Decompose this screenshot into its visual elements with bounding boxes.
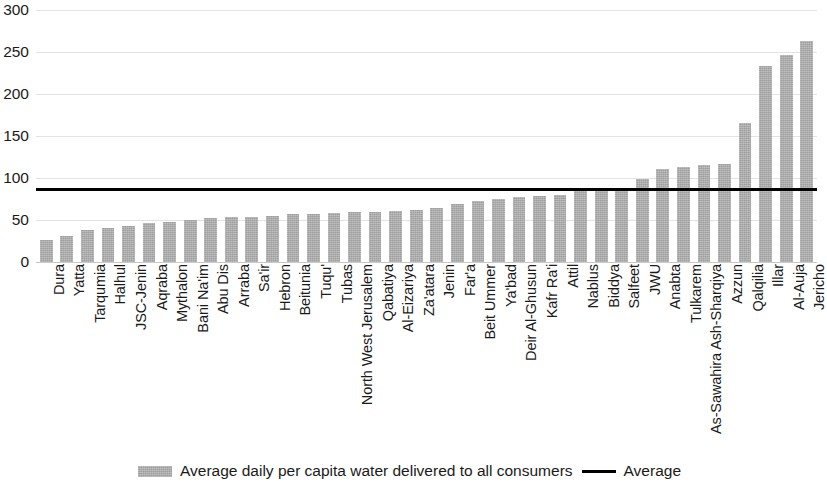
x-axis-tick-label: Al-Eizariya	[401, 264, 416, 332]
x-axis-tick-label: JSC-Jenin	[134, 264, 149, 330]
plot-area	[36, 10, 817, 262]
bar	[307, 214, 320, 262]
x-axis-tick-label: Biddya	[607, 264, 622, 308]
legend-label-average: Average	[624, 462, 681, 480]
bar	[759, 66, 772, 262]
bar	[800, 41, 813, 262]
x-axis-tick-label: Deir Al-Ghusun	[524, 264, 539, 361]
bar	[451, 204, 464, 262]
bar	[513, 197, 526, 262]
x-axis-tick-label: Bani Na'im	[196, 264, 211, 333]
bar	[698, 165, 711, 262]
bar-swatch-icon	[138, 466, 172, 477]
bar	[60, 236, 73, 262]
x-axis-tick-label: Tulkarem	[689, 264, 704, 323]
bar	[163, 222, 176, 262]
x-axis-tick-label: Mythalon	[175, 264, 190, 322]
y-axis-tick-label: 50	[12, 212, 29, 228]
x-axis-tick-label: Kafr Ra'i	[545, 264, 560, 318]
bar	[245, 217, 258, 262]
x-axis-tick-label: Jenin	[442, 264, 457, 298]
bar	[739, 123, 752, 262]
y-axis: 050100150200250300	[0, 0, 36, 272]
bar	[266, 216, 279, 262]
bar	[225, 217, 238, 262]
bar	[430, 208, 443, 262]
x-axis-tick-label: Tuqu'	[319, 264, 334, 299]
x-axis-tick-label: Tarqumia	[93, 264, 108, 323]
bar	[492, 199, 505, 262]
x-axis-tick-label: Aqraba	[155, 264, 170, 310]
x-axis-tick-label: Qabatiya	[381, 264, 396, 321]
bar	[533, 196, 546, 262]
x-axis-tick-label: Anabta	[668, 264, 683, 309]
x-axis-tick-label: Jericho	[812, 264, 827, 310]
x-axis-tick-label: Abu Dis	[216, 264, 231, 314]
x-axis-tick-label: Sa'ir	[257, 264, 272, 292]
y-axis-tick-label: 150	[3, 128, 29, 144]
bar	[287, 214, 300, 262]
x-axis-tick-label: Illar	[771, 264, 786, 287]
x-axis-tick-label: North West Jerusalem	[360, 264, 375, 405]
x-axis-tick-label: Tubas	[340, 264, 355, 303]
x-axis-tick-label: Beit Ummer	[483, 264, 498, 340]
bar	[615, 191, 628, 262]
y-axis-tick-label: 200	[3, 86, 29, 102]
bar	[369, 212, 382, 262]
x-axis: DuraYattaTarqumiaHalhulJSC-JeninAqrabaMy…	[36, 264, 817, 454]
x-axis-tick-label: Dura	[52, 264, 67, 295]
bar	[122, 226, 135, 262]
x-axis-tick-label: Arraba	[237, 264, 252, 307]
x-axis-tick-label: Al-Auja	[792, 264, 807, 310]
bar	[204, 218, 217, 262]
bar	[780, 55, 793, 262]
line-swatch-icon	[582, 470, 616, 473]
y-axis-tick-label: 0	[20, 254, 29, 270]
gridline	[36, 262, 817, 263]
x-axis-tick-label: Yatta	[72, 264, 87, 296]
legend-label-bars: Average daily per capita water delivered…	[180, 462, 573, 480]
bar	[472, 201, 485, 262]
x-axis-tick-label: Azzun	[730, 264, 745, 304]
bar	[184, 220, 197, 262]
x-axis-tick-label: Ya'bad	[504, 264, 519, 307]
y-axis-tick-label: 300	[3, 2, 29, 18]
legend-entry-average: Average	[582, 462, 681, 480]
x-axis-tick-label: Hebron	[278, 264, 293, 311]
bar	[81, 230, 94, 262]
x-axis-tick-label: As-Sawahira Ash-Sharqiya	[709, 264, 724, 434]
average-reference-line	[36, 188, 817, 191]
bar	[348, 212, 361, 262]
chart-legend: Average daily per capita water delivered…	[0, 462, 819, 480]
x-axis-tick-label: Beitunia	[298, 264, 313, 316]
x-axis-tick-label: Halhul	[113, 264, 128, 305]
x-axis-tick-label: Nablus	[586, 264, 601, 309]
bar	[718, 164, 731, 262]
x-axis-tick-label: Far'a	[463, 264, 478, 296]
x-axis-tick-label: Attil	[566, 264, 581, 288]
bar	[677, 167, 690, 262]
y-axis-tick-label: 100	[3, 170, 29, 186]
x-axis-tick-label: Qalqilia	[751, 264, 766, 312]
legend-entry-bars: Average daily per capita water delivered…	[138, 462, 573, 480]
bar	[410, 210, 423, 262]
bar	[328, 213, 341, 262]
x-axis-tick-label: Salfeet	[627, 264, 642, 308]
bar	[595, 191, 608, 262]
y-axis-tick-label: 250	[3, 44, 29, 60]
bar	[143, 223, 156, 262]
bars-layer	[36, 10, 817, 262]
x-axis-tick-label: Za'atara	[422, 264, 437, 316]
bar	[102, 228, 115, 262]
x-axis-tick-label: JWU	[648, 264, 663, 295]
bar	[40, 240, 53, 262]
bar	[389, 211, 402, 262]
bar	[554, 195, 567, 262]
bar	[636, 179, 649, 262]
bar	[656, 169, 669, 262]
bar	[574, 191, 587, 262]
